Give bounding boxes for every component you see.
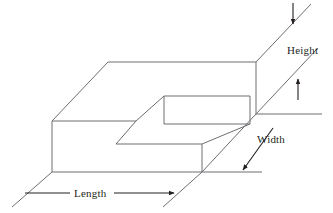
- edge-notch-receding-left: [136, 96, 164, 121]
- edge-step-receding-front-left: [116, 121, 136, 144]
- extension-lines-group: [12, 4, 322, 207]
- extension-line-width-lower: [163, 172, 202, 207]
- solid-body-group: [52, 62, 256, 172]
- dimension-label-length: Length: [74, 187, 106, 199]
- extension-line-height-bottom: [256, 48, 318, 114]
- stepped-block-figure: [0, 0, 333, 213]
- dimension-label-height: Height: [287, 44, 318, 56]
- extension-line-length-left: [12, 172, 52, 207]
- dimension-diagram: Height Width Length: [0, 0, 333, 213]
- edge-top-left-receding: [52, 62, 108, 121]
- dimension-label-width: Width: [257, 133, 285, 145]
- edge-step-receding-right: [202, 124, 250, 144]
